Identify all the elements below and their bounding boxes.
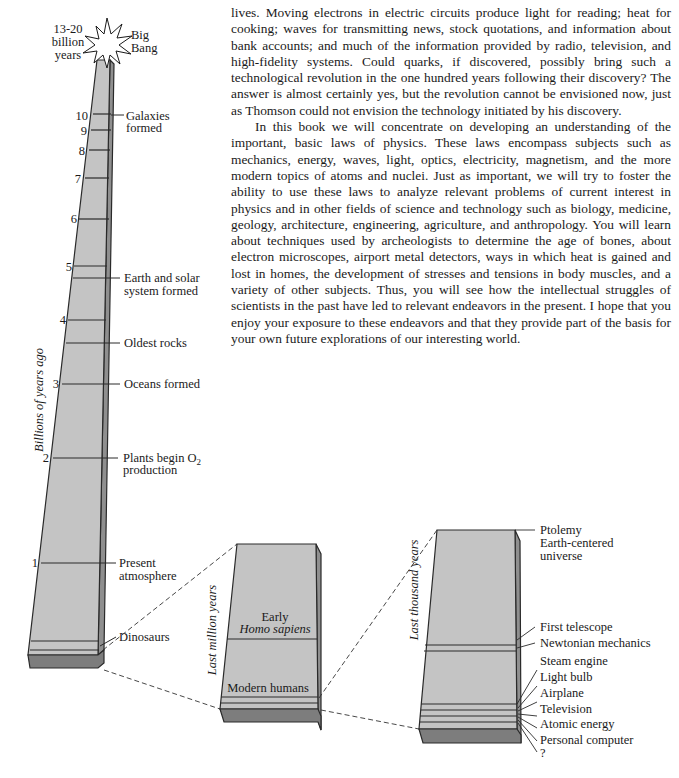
svg-text:8: 8 (79, 144, 85, 158)
svg-text:Television: Television (540, 702, 593, 716)
column2-axis-label: Last million years (205, 585, 219, 676)
svg-text:system formed: system formed (124, 284, 199, 298)
svg-text:production: production (123, 463, 178, 477)
column1-axis-label: Billions of years ago (32, 348, 46, 452)
svg-text:Steam engine: Steam engine (540, 654, 608, 668)
svg-text:4: 4 (60, 313, 67, 327)
svg-text:1: 1 (32, 556, 38, 570)
svg-text:billion: billion (52, 35, 85, 49)
svg-text:atmosphere: atmosphere (119, 569, 177, 583)
svg-text:10: 10 (76, 109, 89, 123)
svg-text:formed: formed (126, 121, 163, 135)
svg-text:Atomic energy: Atomic energy (540, 717, 615, 731)
big-bang-age-label: 13-20 billion years (52, 22, 85, 62)
svg-text:Light bulb: Light bulb (540, 670, 592, 684)
geologic-timeline-diagram: 13-20 billion years Big Bang 10 9 8 7 6 … (0, 0, 679, 778)
svg-text:Earth and solar: Earth and solar (124, 271, 201, 285)
svg-text:Oldest rocks: Oldest rocks (124, 336, 187, 350)
svg-text:Newtonian mechanics: Newtonian mechanics (540, 636, 651, 650)
svg-text:?: ? (540, 746, 546, 760)
svg-text:Big: Big (131, 28, 150, 42)
column2-bottom-slab (220, 709, 321, 730)
column3-axis-label: Last thousand years (407, 540, 421, 642)
svg-text:Personal computer: Personal computer (540, 733, 634, 747)
svg-text:Present: Present (119, 556, 156, 570)
svg-text:Earth-centered: Earth-centered (540, 536, 614, 550)
column3-bottom-slab (419, 729, 521, 743)
svg-text:7: 7 (75, 172, 81, 186)
svg-text:3: 3 (53, 377, 59, 391)
column1-event-labels: Galaxies formed Earth and solar system f… (119, 109, 201, 644)
svg-text:Oceans formed: Oceans formed (124, 377, 201, 391)
svg-text:Homo sapiens: Homo sapiens (238, 622, 310, 636)
svg-text:First telescope: First telescope (540, 620, 613, 634)
svg-text:6: 6 (71, 212, 77, 226)
column3-front-face (419, 530, 517, 729)
svg-text:13-20: 13-20 (53, 22, 82, 36)
svg-text:2: 2 (43, 451, 49, 465)
svg-text:universe: universe (540, 549, 583, 563)
svg-text:Ptolemy: Ptolemy (540, 523, 582, 537)
column-thousand (419, 530, 521, 743)
big-bang-star-icon (83, 18, 132, 68)
svg-text:9: 9 (81, 124, 87, 138)
svg-text:5: 5 (66, 260, 72, 274)
svg-text:Airplane: Airplane (540, 686, 584, 700)
column-million (220, 544, 321, 730)
svg-text:Bang: Bang (131, 41, 158, 55)
svg-text:Dinosaurs: Dinosaurs (119, 630, 170, 644)
column3-event-labels: Ptolemy Earth-centered universe First te… (540, 523, 651, 760)
svg-text:Modern humans: Modern humans (227, 681, 309, 695)
big-bang-event-label: Big Bang (131, 28, 158, 55)
svg-text:years: years (55, 48, 82, 62)
